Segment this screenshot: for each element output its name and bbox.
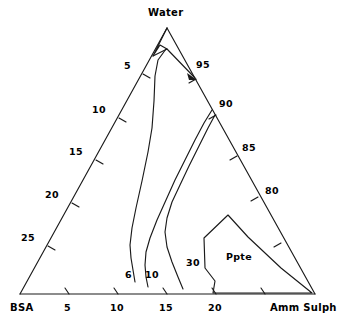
tick-label-right-80: 80 [265, 186, 279, 196]
tick-bottom-10 [114, 288, 118, 294]
curve-label-30: 30 [186, 258, 200, 268]
tick-label-left-20: 20 [45, 190, 59, 200]
tick-label-bottom-20: 20 [208, 303, 222, 313]
tick-bottom-5 [65, 288, 69, 294]
tick-label-left-5: 5 [124, 61, 131, 71]
ppte-region-outline [204, 215, 312, 293]
curve-label-6: 6 [125, 270, 132, 280]
tick-label-right-90: 90 [219, 99, 233, 109]
tick-label-bottom-15: 15 [159, 303, 173, 313]
tick-left-25 [48, 246, 55, 250]
tick-left-15 [96, 160, 103, 164]
tick-left-10 [119, 118, 126, 122]
curve-label-10: 10 [145, 270, 159, 280]
triangle-left-axis [20, 28, 167, 294]
vertex-label-bsa: BSA [10, 303, 33, 313]
tick-label-left-10: 10 [92, 105, 106, 115]
ternary-diagram-canvas [0, 0, 345, 329]
isotherm-curve-10 [145, 110, 212, 287]
tick-label-right-95: 95 [196, 60, 210, 70]
ternary-phase-diagram: Water BSA Amm Sulph 5 10 15 20 25 95 90 … [0, 0, 345, 329]
tick-label-bottom-5: 5 [64, 303, 71, 313]
tick-right-unlabeled [274, 243, 281, 247]
vertex-label-water: Water [148, 8, 183, 18]
tick-right-80 [251, 197, 258, 201]
region-label-ppte: Ppte [226, 252, 252, 262]
tick-label-left-15: 15 [69, 147, 83, 157]
tick-label-bottom-10: 10 [110, 303, 124, 313]
vertex-label-amm-sulph: Amm Sulph [270, 303, 337, 313]
tick-right-85 [230, 156, 237, 160]
tick-label-right-85: 85 [242, 143, 256, 153]
left-axis-ticks [48, 74, 150, 250]
tick-label-left-25: 25 [21, 233, 35, 243]
tick-left-20 [72, 203, 79, 207]
tick-bottom-15 [163, 288, 167, 294]
right-axis-ticks [189, 79, 281, 247]
tick-left-5 [143, 74, 150, 78]
